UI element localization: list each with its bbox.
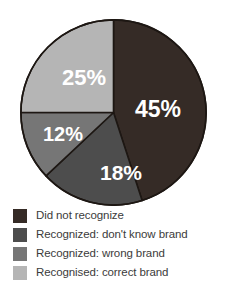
legend-item-label: Recognized: wrong brand xyxy=(36,247,165,260)
legend-swatch-icon xyxy=(13,209,27,223)
pie-label-dont-know-brand: 18% xyxy=(100,161,142,184)
legend-swatch-icon xyxy=(13,247,27,261)
pie-label-correct-brand: 25% xyxy=(62,65,106,90)
legend-item-did-not-recognize[interactable]: Did not recognize xyxy=(13,206,229,225)
chart-legend: Did not recognize Recognized: don't know… xyxy=(13,206,229,282)
pie-label-did-not-recognize: 45% xyxy=(135,96,181,122)
pie-chart-figure: 45% 18% 12% 25% Did not recognize Recogn… xyxy=(0,0,232,296)
legend-item-correct-brand[interactable]: Recognised: correct brand xyxy=(13,263,229,282)
legend-swatch-icon xyxy=(13,228,27,242)
pie-chart-svg: 45% 18% 12% 25% xyxy=(20,19,207,206)
pie-chart: 45% 18% 12% 25% xyxy=(20,19,207,206)
pie-label-wrong-brand: 12% xyxy=(43,123,83,145)
legend-swatch-icon xyxy=(13,266,27,280)
legend-item-label: Recognized: don't know brand xyxy=(36,228,188,241)
legend-item-label: Did not recognize xyxy=(36,209,124,222)
legend-item-wrong-brand[interactable]: Recognized: wrong brand xyxy=(13,244,229,263)
legend-item-label: Recognised: correct brand xyxy=(36,266,168,279)
legend-item-dont-know-brand[interactable]: Recognized: don't know brand xyxy=(13,225,229,244)
